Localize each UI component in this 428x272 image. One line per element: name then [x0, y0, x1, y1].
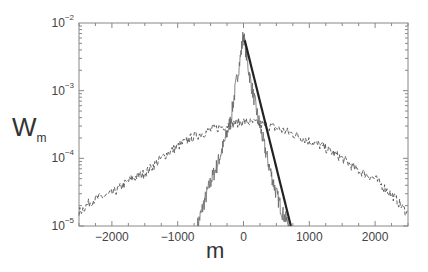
x-tick-label: −1000	[148, 230, 208, 244]
fit-line	[245, 41, 291, 226]
plot-frame	[79, 23, 408, 226]
x-tick-label: 1000	[279, 230, 339, 244]
narrow-distribution-line	[197, 32, 289, 226]
x-tick-label: 2000	[345, 230, 405, 244]
axis-ticks	[79, 23, 408, 226]
y-tick-label: 10−3	[30, 83, 74, 98]
y-axis-label-main: W	[12, 112, 37, 142]
x-tick-label: −2000	[82, 230, 142, 244]
y-tick-label: 10−5	[30, 218, 74, 233]
y-tick-label: 10−4	[30, 150, 74, 165]
y-axis-label-subscript: m	[37, 131, 47, 145]
broad-distribution-line	[79, 118, 408, 216]
y-axis-label: Wm	[12, 112, 47, 145]
y-tick-label: 10−2	[30, 15, 74, 30]
x-axis-label: m	[206, 238, 224, 264]
data-series	[79, 32, 408, 226]
